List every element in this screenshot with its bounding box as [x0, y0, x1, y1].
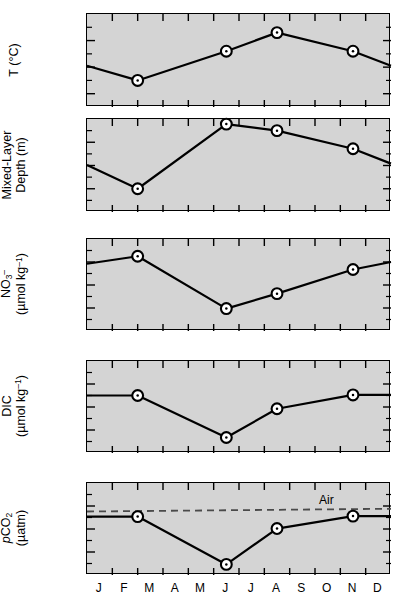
data-point: [221, 303, 232, 314]
data-point: [272, 288, 283, 299]
x-tick-label: O: [314, 581, 339, 595]
x-ticks-nitrate: [112, 239, 365, 331]
data-point: [221, 46, 232, 57]
series-line-nitrate: [87, 256, 391, 308]
figure-seasonal-cycles: 46810T (°C)0100200300400Mixed-LayerDepth…: [0, 0, 401, 613]
data-point: [272, 523, 283, 534]
plot-area-mixed-layer-depth: [86, 118, 390, 211]
plot-svg-dic: [87, 361, 391, 453]
x-tick-label: F: [111, 581, 136, 595]
plot-svg-temperature: [87, 14, 391, 107]
x-tick-label: A: [162, 581, 187, 595]
plot-svg-mixed-layer-depth: [87, 119, 391, 212]
data-point: [132, 75, 143, 86]
data-point: [348, 390, 359, 401]
plot-area-pco2: [86, 482, 390, 574]
y-axis-title-pco2: pCO2(µatm): [0, 480, 29, 576]
plot-svg-pco2: [87, 483, 391, 575]
x-ticks-temperature: [112, 14, 365, 107]
data-point: [348, 46, 359, 57]
x-ticks-dic: [112, 361, 365, 453]
y-axis-title-dic: DIC(µmol kg–1): [0, 358, 28, 454]
plot-svg-nitrate: [87, 239, 391, 331]
y-ticks-nitrate: [87, 251, 391, 320]
x-tick-label: J: [86, 581, 111, 595]
plot-area-nitrate: [86, 238, 390, 330]
data-point: [132, 390, 143, 401]
data-point: [348, 511, 359, 522]
y-axis-title-nitrate: NO3–(µmol kg–1): [0, 236, 29, 332]
x-tick-label: M: [137, 581, 162, 595]
data-point: [272, 403, 283, 414]
data-point: [348, 264, 359, 275]
data-point: [132, 511, 143, 522]
data-point: [272, 125, 283, 136]
x-tick-label: D: [365, 581, 390, 595]
data-point: [221, 559, 232, 570]
x-tick-label: J: [213, 581, 238, 595]
plot-area-dic: [86, 360, 390, 452]
data-point: [348, 143, 359, 154]
y-ticks-pco2: [87, 495, 391, 564]
plot-area-temperature: [86, 13, 390, 106]
data-point: [132, 183, 143, 194]
series-line-temperature: [87, 33, 391, 81]
series-line-dic: [87, 395, 391, 438]
series-line-pco2: [87, 516, 391, 564]
x-tick-label: A: [263, 581, 288, 595]
air-label: Air: [319, 493, 334, 507]
data-point: [221, 119, 232, 130]
series-line-mixed-layer-depth: [87, 124, 391, 189]
data-point: [221, 432, 232, 443]
x-tick-label: N: [339, 581, 364, 595]
x-ticks-mixed-layer-depth: [112, 119, 365, 212]
data-point: [132, 251, 143, 262]
y-axis-title-mixed-layer-depth: Mixed-LayerDepth (m): [0, 117, 28, 213]
air-pco2-line: [87, 509, 391, 512]
y-axis-title-temperature: T (°C): [7, 12, 21, 108]
x-tick-label: J: [238, 581, 263, 595]
data-point: [272, 27, 283, 38]
x-tick-label: M: [187, 581, 212, 595]
x-tick-label: S: [289, 581, 314, 595]
